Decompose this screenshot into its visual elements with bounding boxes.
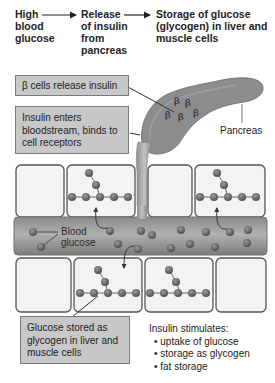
flow-text-line: High: [15, 8, 55, 20]
flow-text-line: Release: [81, 8, 128, 20]
insulin-stimulates-list: Insulin stimulates: • uptake of glucose …: [149, 323, 250, 373]
flow-text-line: blood: [15, 20, 55, 32]
beta-symbol: β: [193, 107, 199, 118]
flow-text-line: muscle cells: [156, 32, 267, 44]
callout-text: glycogen in liver and: [27, 335, 123, 348]
list-item: • uptake of glucose: [149, 336, 250, 349]
pancreas-organ: [142, 78, 263, 154]
callout-insulin-enters: Insulin enters bloodstream, binds to cel…: [15, 106, 129, 154]
callout-glucose-stored: Glucose stored as glycogen in liver and …: [20, 316, 130, 364]
blood-glucose-label: Blood glucose: [61, 226, 95, 248]
list-item-text: uptake of glucose: [160, 336, 238, 347]
pancreas-label: Pancreas: [220, 125, 262, 137]
callout-text: β cells release insulin: [22, 80, 117, 91]
beta-symbol: β: [165, 109, 171, 120]
list-item-text: fat storage: [160, 361, 207, 372]
callout-beta-cells: β cells release insulin: [15, 75, 129, 96]
flow-text-line: of insulin: [81, 20, 128, 32]
list-item: • fat storage: [149, 361, 250, 374]
label-line: Blood: [61, 226, 95, 237]
flow-text-line: (glycogen) in liver and: [156, 20, 267, 32]
flow-step-high-glucose: High blood glucose: [15, 8, 55, 44]
callout-text: Glucose stored as: [27, 322, 123, 335]
callout-text: Insulin enters: [22, 112, 122, 125]
beta-symbol: β: [174, 95, 180, 106]
flow-text-line: pancreas: [81, 44, 128, 56]
list-item-text: storage as glycogen: [160, 348, 250, 359]
beta-symbol: β: [178, 111, 184, 122]
callout-text: bloodstream, binds to: [22, 125, 122, 138]
callout-text: cell receptors: [22, 137, 122, 150]
flow-step-release-insulin: Release of insulin from pancreas: [81, 8, 128, 56]
flow-text-line: Storage of glucose: [156, 8, 267, 20]
flow-text-line: glucose: [15, 32, 55, 44]
beta-symbol: β: [185, 97, 191, 108]
flow-text-line: from: [81, 32, 128, 44]
callout-text: muscle cells: [27, 347, 123, 360]
list-item: • storage as glycogen: [149, 348, 250, 361]
list-title: Insulin stimulates:: [149, 323, 250, 336]
label-line: glucose: [61, 237, 95, 248]
bottom-cell-row: [16, 258, 266, 312]
flow-step-storage: Storage of glucose (glycogen) in liver a…: [156, 8, 267, 44]
